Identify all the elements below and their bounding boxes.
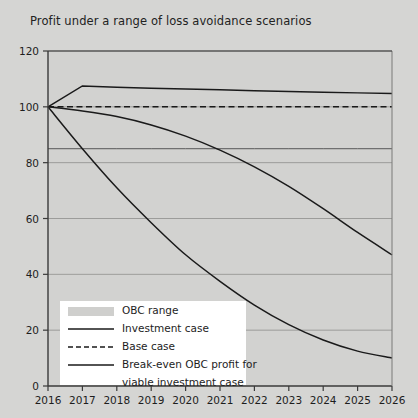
legend-label: Break-even OBC profit for [122, 358, 257, 370]
legend-label: OBC range [122, 304, 178, 316]
y-tick-label: 60 [26, 213, 39, 225]
x-tick-label: 2024 [310, 394, 337, 406]
chart-figure: Profit under a range of loss avoidance s… [0, 0, 418, 418]
y-tick-label: 120 [19, 45, 39, 57]
x-tick-label: 2017 [69, 394, 96, 406]
chart-legend: OBC rangeInvestment caseBase caseBreak-e… [60, 301, 257, 388]
y-tick-label: 20 [26, 324, 39, 336]
x-tick-label: 2019 [138, 394, 165, 406]
y-tick-label: 80 [26, 157, 39, 169]
y-tick-label: 100 [19, 101, 39, 113]
x-axis-ticks: 2016201720182019202020212022202320242025… [35, 386, 406, 406]
legend-label: Base case [122, 340, 175, 352]
legend-label: Investment case [122, 322, 209, 334]
legend-swatch [68, 307, 114, 316]
y-tick-label: 40 [26, 268, 39, 280]
x-tick-label: 2023 [275, 394, 302, 406]
x-tick-label: 2016 [35, 394, 62, 406]
chart-canvas: 020406080100120 201620172018201920202021… [0, 0, 418, 418]
x-tick-label: 2021 [207, 394, 234, 406]
x-tick-label: 2022 [241, 394, 268, 406]
x-tick-label: 2018 [103, 394, 130, 406]
x-tick-label: 2025 [344, 394, 371, 406]
x-tick-label: 2026 [379, 394, 406, 406]
y-tick-label: 0 [32, 380, 39, 392]
y-axis-ticks: 020406080100120 [19, 45, 48, 392]
legend-label: viable investment case [122, 376, 244, 388]
x-tick-label: 2020 [172, 394, 199, 406]
